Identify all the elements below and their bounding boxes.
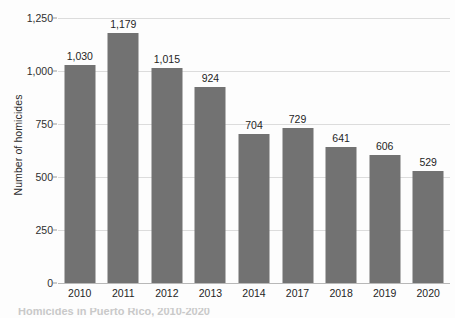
- bar-value-label: 704: [245, 119, 263, 131]
- y-tick-label: 500: [35, 171, 53, 183]
- bar[interactable]: [369, 155, 400, 283]
- figure-caption-cropped: Homicides in Puerto Rico, 2010-2020: [0, 308, 455, 318]
- bar[interactable]: [413, 171, 444, 283]
- y-tick-mark: [53, 230, 57, 231]
- y-tick-label: 750: [35, 118, 53, 130]
- y-axis-title: Number of homicides: [6, 0, 30, 290]
- y-tick-mark: [53, 124, 57, 125]
- bar[interactable]: [108, 33, 139, 283]
- x-tick-label: 2012: [155, 287, 178, 299]
- x-tick-label: 2014: [242, 287, 265, 299]
- y-tick-label: 1,000: [27, 65, 53, 77]
- y-tick-mark: [53, 18, 57, 19]
- x-tick-label: 2020: [417, 287, 440, 299]
- y-tick-mark: [53, 283, 57, 284]
- bar-value-label: 924: [202, 72, 220, 84]
- bar-value-label: 1,179: [110, 18, 136, 30]
- bar-slot: 7042014: [232, 18, 276, 283]
- x-tick-label: 2019: [373, 287, 396, 299]
- bar-slot: 5292020: [406, 18, 450, 283]
- x-tick-label: 2010: [68, 287, 91, 299]
- bar-slot: 1,0152012: [145, 18, 189, 283]
- axis-baseline: [58, 283, 450, 284]
- y-tick-label: 1,250: [27, 12, 53, 24]
- bar-slot: 6062019: [363, 18, 407, 283]
- bar[interactable]: [151, 68, 182, 283]
- bar[interactable]: [238, 134, 269, 283]
- x-tick-label: 2017: [286, 287, 309, 299]
- bar-slot: 9242013: [189, 18, 233, 283]
- bar-slot: 7292017: [276, 18, 320, 283]
- bar[interactable]: [326, 147, 357, 283]
- bar-value-label: 1,030: [67, 50, 93, 62]
- bar-slot: 1,0302010: [58, 18, 102, 283]
- y-axis-title-label: Number of homicides: [12, 94, 24, 195]
- bar[interactable]: [282, 128, 313, 283]
- y-tick-mark: [53, 177, 57, 178]
- bar-slot: 1,1792011: [102, 18, 146, 283]
- bar-value-label: 606: [376, 140, 394, 152]
- figure-caption-text: Homicides in Puerto Rico, 2010-2020: [18, 308, 210, 317]
- bar-value-label: 1,015: [154, 53, 180, 65]
- bar-value-label: 641: [332, 132, 350, 144]
- bar-slot: 6412018: [319, 18, 363, 283]
- bar-value-label: 529: [419, 156, 437, 168]
- y-tick-label: 250: [35, 224, 53, 236]
- x-tick-label: 2013: [199, 287, 222, 299]
- y-tick-label: 0: [47, 277, 53, 289]
- bar[interactable]: [64, 65, 95, 283]
- plot-area: 02505007501,0001,250 1,03020101,17920111…: [58, 18, 450, 283]
- bar[interactable]: [195, 87, 226, 283]
- bars-group: 1,03020101,17920111,01520129242013704201…: [58, 18, 450, 283]
- x-tick-label: 2011: [112, 287, 135, 299]
- bar-chart-figure: Number of homicides 02505007501,0001,250…: [0, 0, 455, 318]
- x-tick-label: 2018: [329, 287, 352, 299]
- bar-value-label: 729: [289, 113, 307, 125]
- y-tick-mark: [53, 71, 57, 72]
